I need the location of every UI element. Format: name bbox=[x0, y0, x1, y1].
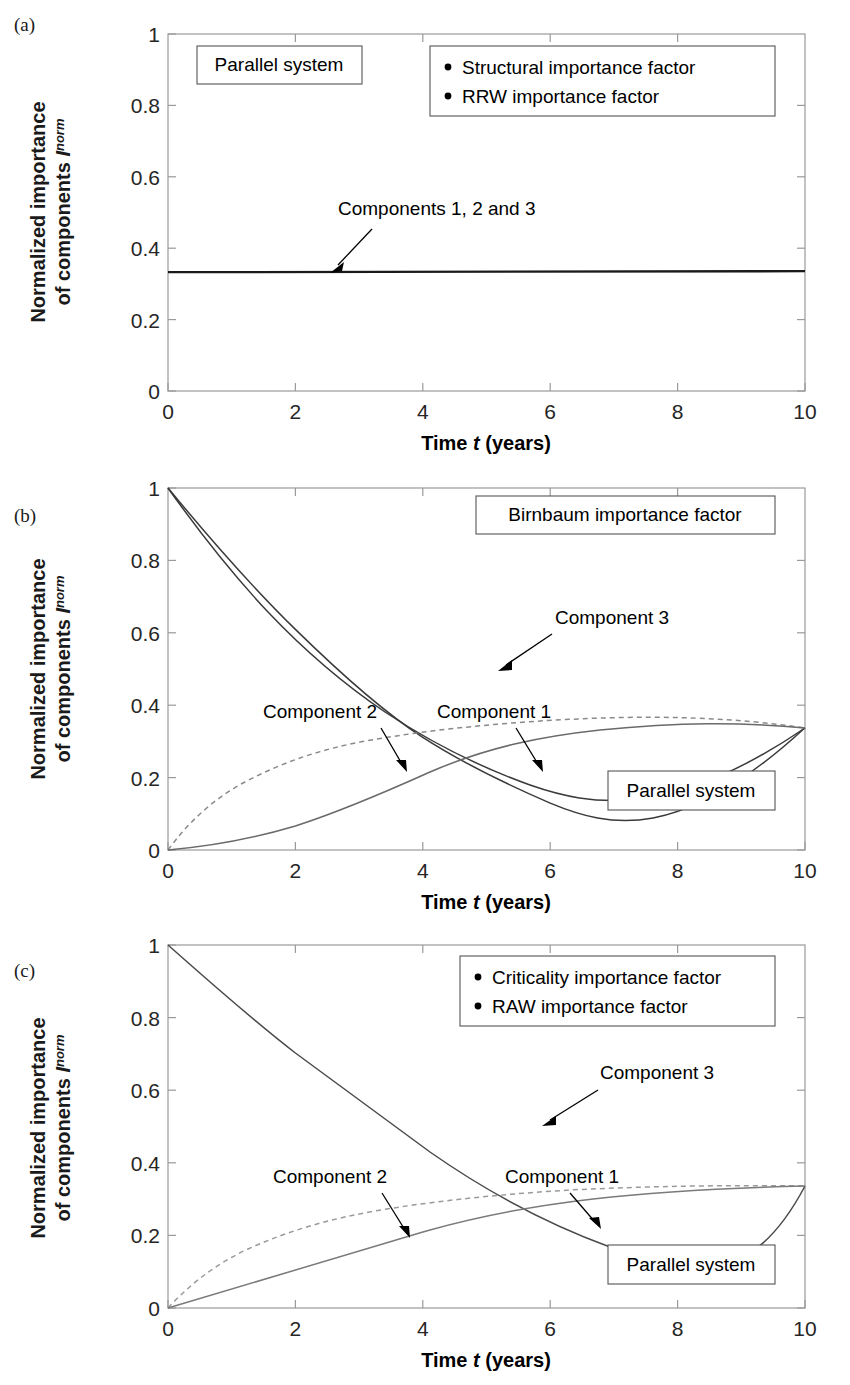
y-tick-label: 0.4 bbox=[131, 1152, 161, 1175]
legend-item-label: RRW importance factor bbox=[462, 86, 660, 107]
x-tick-label: 0 bbox=[162, 859, 174, 882]
y-tick-label: 0.4 bbox=[131, 694, 161, 717]
annotation-component-3-c: Component 3 bbox=[600, 1062, 714, 1083]
legend-item-label: Structural importance factor bbox=[462, 57, 696, 78]
panel-b: (b) 0 0.2 0 bbox=[0, 460, 850, 923]
parallel-system-label: Parallel system bbox=[215, 54, 344, 75]
y-tick-label: 0.2 bbox=[131, 309, 160, 332]
legend-bullet-icon bbox=[475, 974, 482, 981]
y-axis-title-line2: of components Inorm bbox=[52, 1034, 74, 1221]
x-tick-label: 6 bbox=[544, 1317, 556, 1340]
x-tick-label: 0 bbox=[162, 1317, 174, 1340]
y-tick-label: 0.6 bbox=[131, 166, 160, 189]
x-axis-title: Time t (years) bbox=[421, 1349, 551, 1371]
legend-bullet-icon bbox=[445, 93, 452, 100]
parallel-system-label: Parallel system bbox=[627, 1254, 756, 1275]
y-tick-label: 0.4 bbox=[131, 237, 161, 260]
panel-a-plot: 0 0.2 0.4 0.6 0.8 1 0 2 4 6 8 10 Time t … bbox=[0, 0, 850, 460]
y-axis-title-line2: of components Inorm bbox=[52, 575, 74, 762]
x-tick-label: 8 bbox=[672, 1317, 684, 1340]
parallel-system-box-a: Parallel system bbox=[197, 46, 362, 84]
panel-c: (c) 0 0.2 0 bbox=[0, 920, 850, 1385]
panel-b-plot: 0 0.2 0.4 0.6 0.8 1 0 2 4 6 8 10 Time t … bbox=[0, 460, 850, 923]
series-components-1-2-3 bbox=[168, 271, 805, 272]
legend-bullet-icon bbox=[475, 1003, 482, 1010]
y-tick-label: 1 bbox=[148, 934, 160, 957]
y-tick-label: 0 bbox=[148, 1297, 160, 1320]
x-tick-label: 10 bbox=[793, 859, 816, 882]
y-tick-label: 0.8 bbox=[131, 94, 160, 117]
x-tick-label: 8 bbox=[672, 859, 684, 882]
birnbaum-factor-box: Birnbaum importance factor bbox=[476, 496, 775, 534]
panel-c-plot: 0 0.2 0.4 0.6 0.8 1 0 2 4 6 8 10 Time t … bbox=[0, 920, 850, 1385]
annotation-component-1-b: Component 1 bbox=[437, 701, 551, 722]
x-tick-label: 6 bbox=[544, 400, 556, 423]
parallel-system-box-b: Parallel system bbox=[608, 771, 775, 810]
parallel-system-label: Parallel system bbox=[627, 780, 756, 801]
legend-item-label: RAW importance factor bbox=[492, 996, 688, 1017]
x-tick-label: 8 bbox=[672, 400, 684, 423]
x-tick-label: 4 bbox=[417, 400, 429, 423]
x-tick-label: 10 bbox=[793, 1317, 816, 1340]
x-tick-label: 4 bbox=[417, 859, 429, 882]
x-tick-label: 2 bbox=[290, 1317, 302, 1340]
annotation-components-1-2-3: Components 1, 2 and 3 bbox=[338, 198, 536, 219]
x-axis-title: Time t (years) bbox=[421, 891, 551, 913]
legend-box-c: Criticality importance factor RAW import… bbox=[460, 956, 775, 1026]
annotation-component-2-b: Component 2 bbox=[263, 701, 377, 722]
annotation-component-2-c: Component 2 bbox=[273, 1166, 387, 1187]
y-axis-title-line1: Normalized importance bbox=[27, 1017, 49, 1238]
birnbaum-factor-label: Birnbaum importance factor bbox=[508, 504, 742, 525]
y-axis-title-line1: Normalized importance bbox=[27, 558, 49, 779]
x-tick-label: 4 bbox=[417, 1317, 429, 1340]
x-tick-label: 2 bbox=[290, 859, 302, 882]
y-tick-label: 1 bbox=[148, 477, 160, 500]
parallel-system-box-c: Parallel system bbox=[608, 1245, 775, 1284]
y-tick-label: 0.6 bbox=[131, 1079, 160, 1102]
x-tick-label: 10 bbox=[793, 400, 816, 423]
y-tick-label: 0.8 bbox=[131, 549, 160, 572]
y-tick-label: 0 bbox=[148, 380, 160, 403]
legend-item-label: Criticality importance factor bbox=[492, 967, 722, 988]
y-axis-title-line1: Normalized importance bbox=[27, 101, 49, 322]
x-tick-label: 0 bbox=[162, 400, 174, 423]
y-tick-label: 0 bbox=[148, 839, 160, 862]
panel-a: (a) bbox=[0, 0, 850, 460]
x-tick-label: 6 bbox=[544, 859, 556, 882]
x-tick-label: 2 bbox=[290, 400, 302, 423]
legend-box-a: Structural importance factor RRW importa… bbox=[430, 46, 775, 116]
y-tick-label: 1 bbox=[148, 23, 160, 46]
annotation-component-3-b: Component 3 bbox=[555, 607, 669, 628]
y-axis-title-line2: of components Inorm bbox=[52, 118, 74, 305]
y-tick-label: 0.8 bbox=[131, 1007, 160, 1030]
y-tick-label: 0.2 bbox=[131, 1224, 160, 1247]
x-axis-title: Time t (years) bbox=[421, 432, 551, 454]
annotation-component-1-c: Component 1 bbox=[505, 1166, 619, 1187]
y-tick-label: 0.2 bbox=[131, 767, 160, 790]
legend-bullet-icon bbox=[445, 64, 452, 71]
y-tick-label: 0.6 bbox=[131, 622, 160, 645]
